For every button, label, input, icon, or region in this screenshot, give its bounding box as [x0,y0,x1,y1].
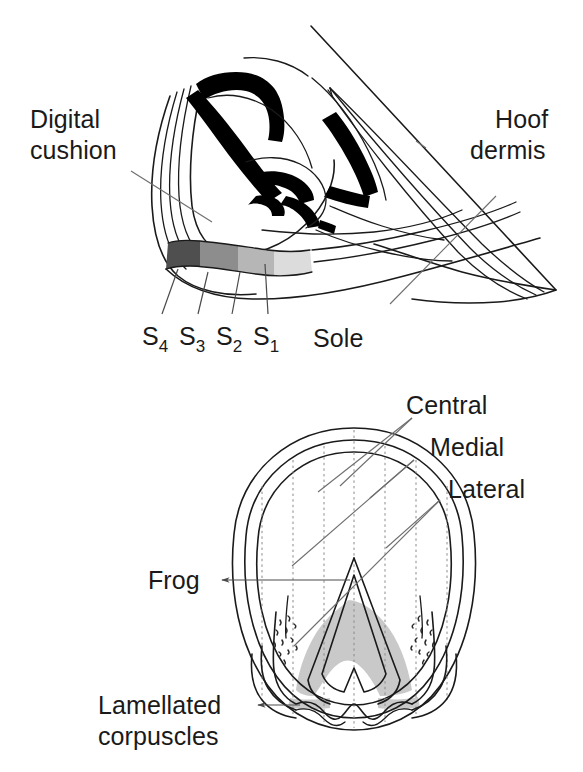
medial-label: Medial [430,433,504,461]
s3-subscript: 3 [196,337,205,356]
digital-cushion-label-line1: Digital [30,105,100,133]
segment-label-s4: S4 [142,322,168,356]
sole-segment-bands [160,236,318,280]
hoof-anatomy-figure: Digital cushion Hoof dermis S4 S3 S2 [0,0,583,772]
s2-subscript: 2 [233,337,242,356]
hoof-dermis-label-line1: Hoof [495,105,548,133]
figure-canvas: Digital cushion Hoof dermis S4 S3 S2 [0,0,583,772]
leader-hoof-dermis-node [416,141,426,148]
sole-inner-contour-2 [314,212,520,262]
upper-joint-outline [244,58,308,76]
hoof-wall-outer-edge [311,26,556,303]
frog-label: Frog [148,566,200,594]
sole-label: Sole [313,324,363,352]
segment-label-s2: S2 [216,322,242,356]
leader-s3 [198,272,208,314]
leader-lateral-b [386,500,440,548]
distal-phalanx-process [248,195,285,216]
s4-subscript: 4 [159,337,168,356]
svg-text:S1: S1 [253,322,279,356]
central-label: Central [406,391,487,419]
hoof-dermis-label-line2: dermis [470,136,546,164]
s1-subscript: 1 [270,337,279,356]
lamellated-corpuscles-label-line2: corpuscles [98,722,219,750]
leader-s2 [232,272,240,314]
s3-letter: S [179,322,196,350]
bottom-panel-solar-surface: Central Medial Lateral Frog Lamellated c… [98,391,525,750]
leader-medial-b [370,460,414,498]
svg-text:S3: S3 [179,322,205,356]
segment-label-s1: S1 [253,322,279,356]
bar-right-outer [412,612,435,704]
s1-letter: S [253,322,270,350]
lateral-label: Lateral [448,475,525,503]
top-panel-sagittal-section: Digital cushion Hoof dermis S4 S3 S2 [30,26,556,356]
leader-hoof-dermis [390,196,496,304]
lamellated-corpuscles-label-line1: Lamellated [98,691,221,719]
digital-cushion-label-line2: cushion [30,136,117,164]
svg-text:S2: S2 [216,322,242,356]
corpuscle-shaded-region [296,600,412,696]
segment-label-s3: S3 [179,322,205,356]
s4-letter: S [142,322,159,350]
s2-letter: S [216,322,233,350]
svg-text:S4: S4 [142,322,168,356]
leader-s4 [162,269,178,314]
band-s4 [160,236,200,280]
